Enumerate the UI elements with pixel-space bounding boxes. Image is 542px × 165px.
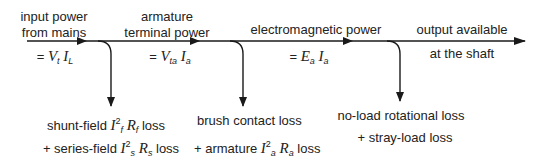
stage-title-line: from mains: [20, 25, 87, 41]
formula-sub: a: [310, 56, 315, 66]
stage-title-line: input power: [20, 9, 87, 25]
stage-title-line: armature: [124, 9, 209, 25]
loss-field-line2: + series-field I2s Rs loss: [43, 136, 179, 161]
formula-var: R: [280, 140, 289, 156]
loss-rotational-line1: no-load rotational loss: [337, 108, 464, 124]
formula-sub: f: [121, 125, 124, 135]
arrowhead-icon: [343, 37, 353, 45]
stage-title-line: terminal power: [124, 25, 209, 41]
formula-sub: a: [271, 148, 276, 158]
formula-sub: a: [186, 56, 191, 66]
stage-title-line: at the shaft: [430, 46, 494, 62]
loss-text: brush contact loss: [197, 113, 302, 128]
formula-sub: L: [68, 56, 73, 66]
stage-electromagnetic-formula: = Ea Ia: [289, 48, 328, 69]
stage-armature-title: armature terminal power: [124, 9, 209, 41]
loss-text: no-load rotational loss: [337, 108, 464, 123]
formula-sub: ta: [170, 56, 178, 66]
loss-text: loss: [138, 118, 165, 133]
loss-text: + stray-load loss: [357, 130, 452, 145]
loss-text: + series-field: [43, 141, 121, 156]
loss-text: + armature: [194, 141, 261, 156]
loss-text: loss: [294, 141, 321, 156]
loss-branch-arrow-1: [98, 41, 111, 106]
stage-input-formula: = Vt IL: [37, 48, 74, 69]
loss-field-line1: shunt-field I2f Rf loss: [47, 113, 165, 138]
stage-output-subtitle: at the shaft: [430, 46, 494, 62]
equals-sign: =: [37, 49, 48, 64]
arrowhead-icon: [514, 37, 526, 45]
loss-branch-arrow-3: [387, 41, 400, 101]
stage-input-title: input power from mains: [20, 9, 87, 41]
formula-sub: a: [324, 56, 329, 66]
stage-title-line: electromagnetic power: [251, 22, 382, 38]
formula-var: R: [127, 117, 136, 133]
stage-output-title: output available: [416, 22, 507, 38]
stage-electromagnetic-title: electromagnetic power: [251, 22, 382, 38]
loss-armature-line1: brush contact loss: [197, 113, 302, 129]
equals-sign: =: [149, 49, 160, 64]
loss-branch-arrow-2: [230, 41, 243, 106]
power-flow-diagram: input power from mains = Vt IL armature …: [0, 0, 542, 165]
stage-title-line: output available: [416, 22, 507, 38]
formula-sub: s: [131, 148, 136, 158]
loss-rotational-line2: + stray-load loss: [357, 130, 452, 146]
loss-armature-line2: + armature I2a Ra loss: [194, 136, 320, 161]
stage-armature-formula: = Vta Ia: [149, 48, 191, 69]
formula-var: R: [139, 140, 148, 156]
loss-text: shunt-field: [47, 118, 111, 133]
equals-sign: =: [289, 49, 300, 64]
loss-text: loss: [152, 141, 179, 156]
formula-sub: t: [57, 56, 60, 66]
